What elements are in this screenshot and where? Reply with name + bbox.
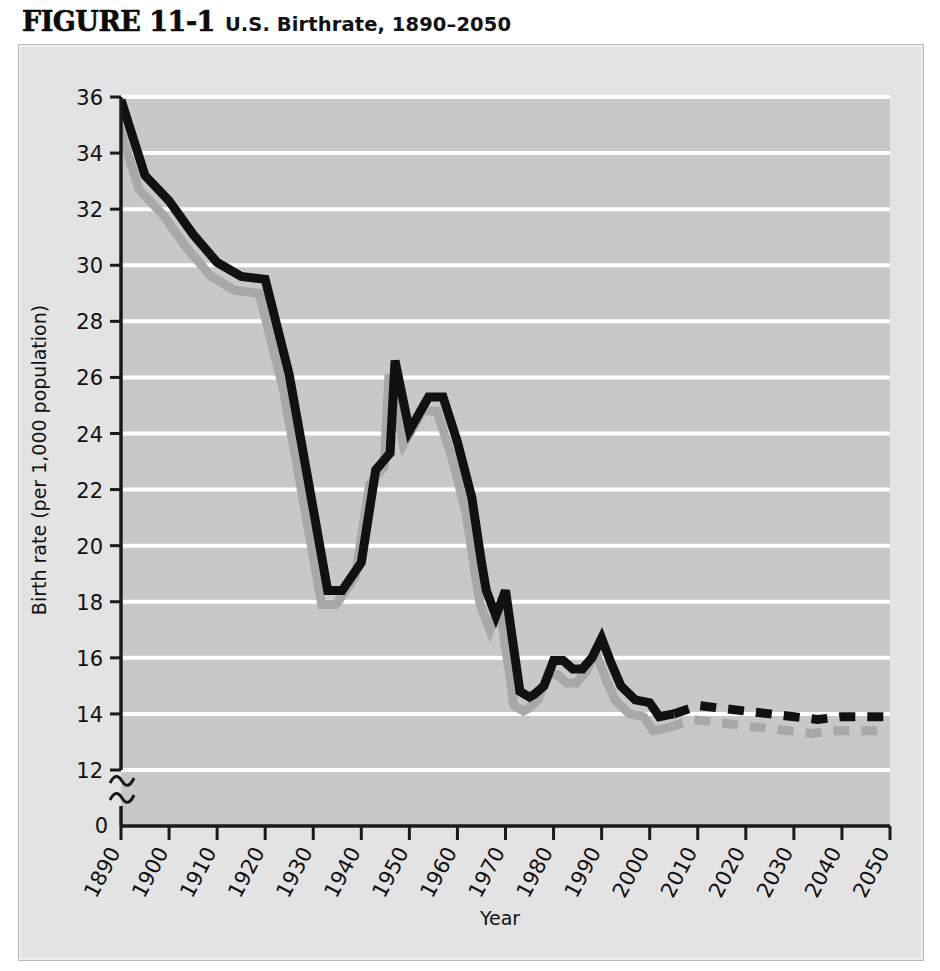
figure-number: FIGURE 11-1 xyxy=(22,6,215,37)
figure-title-bar: FIGURE 11-1U.S. Birthrate, 1890–2050 xyxy=(22,6,922,40)
figure-panel xyxy=(18,44,924,961)
figure-title: U.S. Birthrate, 1890–2050 xyxy=(225,13,511,36)
figure-root: FIGURE 11-1U.S. Birthrate, 1890–2050 xyxy=(0,0,940,971)
